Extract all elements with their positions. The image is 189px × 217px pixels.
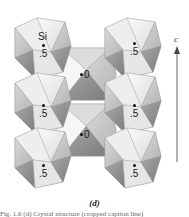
atom-dot (42, 104, 45, 107)
atom-dot (42, 44, 45, 47)
truncated-caption: Fig. 1.6 (d) Crystal structure (cropped … (0, 211, 189, 217)
height-label: .5 (39, 169, 47, 179)
atom-dot (133, 104, 136, 107)
atom-dot (133, 164, 136, 167)
c-axis-label: c (174, 34, 178, 44)
height-label: 0 (84, 130, 90, 140)
atom-dot (42, 164, 45, 167)
panel-label: (d) (0, 198, 189, 208)
height-label: .5 (130, 47, 138, 57)
arrow-up-icon (174, 46, 180, 54)
height-label: .5 (130, 109, 138, 119)
height-label: 0 (84, 70, 90, 80)
height-label: .5 (39, 109, 47, 119)
si-label: Si (38, 32, 47, 42)
octahedron-right-bot (105, 128, 161, 188)
height-label: .5 (130, 169, 138, 179)
atom-dot (133, 42, 136, 45)
height-label: .5 (39, 49, 47, 59)
octahedron-left-bot (15, 128, 71, 188)
octahedron-left-mid (15, 73, 71, 133)
octahedra-figure: Si .5 .5 0 .5 .5 0 .5 .5 c (d) Fig. 1.6 … (0, 0, 189, 217)
atom-dot (80, 73, 83, 76)
octahedra-diagram (0, 0, 189, 217)
atom-dot (80, 133, 83, 136)
caption-text: Fig. 1.6 (d) Crystal structure (cropped … (0, 211, 143, 217)
